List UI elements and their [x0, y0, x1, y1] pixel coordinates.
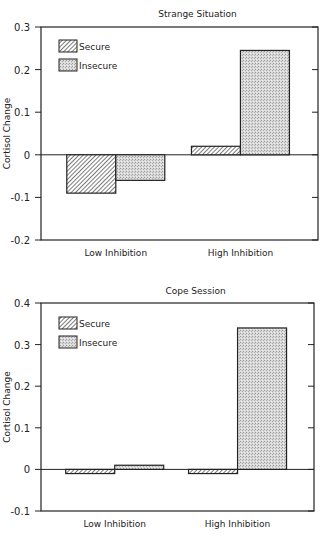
y-tick-label: -0.1 [10, 192, 30, 203]
bar-insecure-low-inhibition [115, 465, 164, 469]
y-tick-label: 0.1 [14, 423, 30, 434]
bar-secure-high-inhibition [191, 146, 240, 155]
legend-swatch [59, 40, 77, 52]
chart-cope-session: Cope Session0.40.30.20.10-0.1Cortisol Ch… [2, 286, 314, 529]
x-category-label: Low Inhibition [84, 248, 147, 258]
y-axis-label: Cortisol Change [2, 371, 12, 443]
chart-strange-situation: Strange Situation0.30.20.10-0.1-0.2Corti… [2, 9, 318, 258]
bar-insecure-high-inhibition [240, 50, 289, 154]
x-category-label: Low Inhibition [83, 519, 146, 529]
figure: Strange Situation0.30.20.10-0.1-0.2Corti… [0, 0, 321, 543]
y-tick-label: 0.3 [14, 22, 30, 33]
y-tick-label: -0.2 [10, 235, 30, 246]
y-tick-label: 0.2 [14, 65, 30, 76]
bar-insecure-high-inhibition [238, 328, 287, 469]
y-tick-label: -0.1 [10, 506, 30, 517]
y-tick-label: 0.3 [14, 340, 30, 351]
bar-secure-low-inhibition [67, 155, 116, 193]
y-tick-label: 0.1 [14, 107, 30, 118]
x-category-label: High Inhibition [208, 248, 274, 258]
legend-label: Insecure [79, 338, 118, 348]
y-tick-label: 0 [24, 464, 30, 475]
x-category-label: High Inhibition [205, 519, 271, 529]
legend-swatch [59, 317, 77, 329]
bar-secure-low-inhibition [66, 469, 115, 473]
legend-swatch [59, 336, 77, 348]
legend-label: Secure [79, 319, 110, 329]
bar-insecure-low-inhibition [116, 155, 165, 181]
legend-swatch [59, 59, 77, 71]
bar-secure-high-inhibition [189, 469, 238, 473]
y-axis-label: Cortisol Change [2, 97, 12, 169]
legend-label: Secure [79, 42, 110, 52]
chart-title: Cope Session [165, 286, 225, 296]
y-tick-label: 0 [24, 150, 30, 161]
chart-title: Strange Situation [158, 9, 236, 19]
y-tick-label: 0.4 [14, 298, 30, 309]
y-tick-label: 0.2 [14, 381, 30, 392]
legend-label: Insecure [79, 61, 118, 71]
